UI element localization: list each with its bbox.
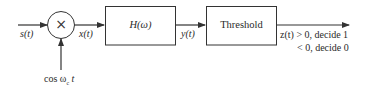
- decision-rule-1: z(t) > 0, decide 1: [280, 30, 348, 40]
- threshold-block-label: Threshold: [206, 20, 277, 31]
- input-signal-label: s(t): [20, 29, 33, 39]
- carrier-label: cos ωc t: [44, 74, 74, 86]
- filter-output-label: y(t): [181, 29, 195, 39]
- mixer-output-label: x(t): [79, 29, 93, 39]
- filter-block-label: H(ω): [105, 20, 176, 31]
- decision-rule-0: < 0, decide 0: [297, 43, 349, 53]
- carrier-time: t: [69, 73, 74, 84]
- carrier-cos-omega: cos ω: [44, 73, 66, 84]
- multiplier-symbol: ×: [52, 17, 70, 31]
